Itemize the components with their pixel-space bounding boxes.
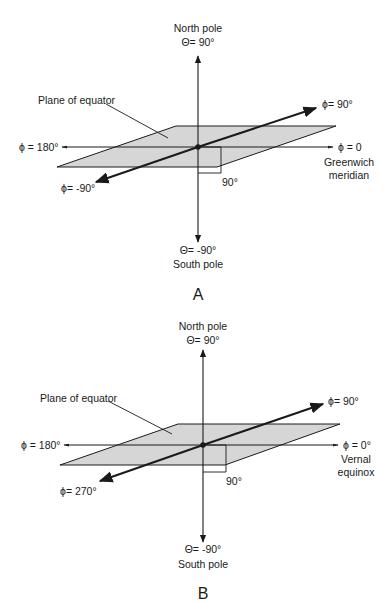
south-pole-label: South pole: [173, 258, 223, 270]
caption-b: B: [198, 585, 209, 602]
vernal-label: Vernal: [341, 453, 371, 465]
south-theta-label: Θ= -90°: [180, 244, 217, 256]
phi-down-label: ϕ= 270°: [60, 485, 97, 497]
greenwich-label: Greenwich: [324, 156, 374, 168]
plane-label: Plane of equator: [40, 392, 118, 404]
south-theta-label: Θ= -90°: [185, 543, 222, 555]
meridian-label: meridian: [329, 169, 369, 181]
right-angle-label: 90°: [226, 475, 242, 487]
plane-leader-line: [106, 104, 168, 138]
caption-a: A: [193, 286, 204, 303]
origin-dot: [200, 442, 206, 448]
equinox-label: equinox: [338, 466, 376, 478]
panel-a: North pole Θ= 90° Plane of equator ϕ= 90…: [19, 22, 374, 303]
north-theta-label: Θ= 90°: [181, 36, 214, 48]
north-pole-label: North pole: [179, 320, 228, 332]
right-angle-label: 90°: [222, 176, 238, 188]
phi-right-label: ϕ = 0°: [343, 439, 371, 451]
phi-left-label: ϕ = 180°: [19, 141, 59, 153]
phi-right-label: ϕ = 0: [338, 141, 362, 153]
spherical-coordinates-figure: North pole Θ= 90° Plane of equator ϕ= 90…: [0, 0, 390, 605]
plane-leader-line: [108, 401, 172, 434]
phi-down-label: ϕ= -90°: [61, 182, 95, 194]
origin-dot: [195, 144, 201, 150]
north-theta-label: Θ= 90°: [186, 334, 219, 346]
phi-left-label: ϕ = 180°: [21, 439, 61, 451]
panel-b: North pole Θ= 90° Plane of equator ϕ= 90…: [21, 320, 375, 602]
south-pole-label: South pole: [178, 558, 228, 570]
phi-up-label: ϕ= 90°: [328, 395, 359, 407]
plane-label: Plane of equator: [38, 94, 116, 106]
north-pole-label: North pole: [174, 22, 223, 34]
phi-up-label: ϕ= 90°: [322, 98, 353, 110]
